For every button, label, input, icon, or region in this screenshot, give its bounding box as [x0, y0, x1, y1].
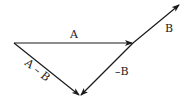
vector-diagram: A B –B A – B: [0, 0, 184, 101]
label-neg-b: –B: [115, 65, 129, 78]
label-b: B: [165, 22, 173, 35]
label-a-minus-b: A – B: [21, 56, 52, 85]
label-a: A: [69, 28, 79, 41]
